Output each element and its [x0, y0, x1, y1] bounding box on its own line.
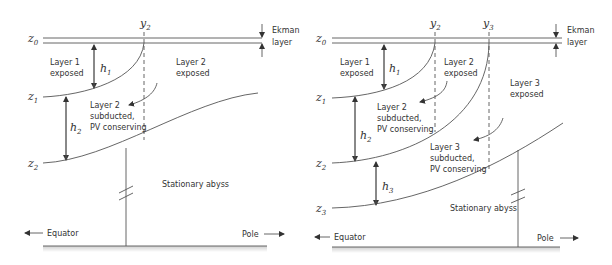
layer2-exposed-label-1: Layer 2	[444, 58, 474, 67]
layer3-subduction-arrow	[474, 118, 503, 140]
layer1-exposed-label-1: Layer 1	[340, 58, 370, 67]
z0-label: z0	[27, 32, 39, 47]
pole-label: Pole	[242, 230, 259, 239]
z3-label: z3	[315, 202, 327, 217]
h1-label: h1	[100, 62, 112, 77]
layer2-subduction-arrow	[420, 81, 447, 102]
panel-three-layer: z0 Ekman layer y2 y3 z1 z2 z3 h1 h2 h3	[315, 17, 594, 253]
ekman-label-1: Ekman	[567, 26, 594, 35]
layer2-subducted-label-1: Layer 2	[377, 103, 407, 112]
z1-label: z1	[27, 90, 38, 105]
layer2-subducted-label-3: PV conserving	[377, 125, 434, 134]
subduction-flow-arrow	[129, 83, 157, 105]
layer2-subducted-label-1: Layer 2	[90, 101, 120, 110]
abyss-label: Stationary abyss	[450, 204, 517, 213]
layer2-subducted-label-3: PV conserving	[90, 123, 147, 132]
equator-label: Equator	[47, 229, 79, 238]
layer3-exposed-label-2: exposed	[510, 90, 544, 99]
h1-label: h1	[389, 62, 401, 77]
layer3-subducted-label-3: PV conserving	[430, 165, 487, 174]
z2-label: z2	[27, 157, 39, 172]
z2-label: z2	[315, 157, 327, 172]
ekman-label-1: Ekman	[272, 26, 299, 35]
layer1-exposed-label-2: exposed	[50, 69, 84, 78]
equator-label: Equator	[334, 233, 366, 242]
abyss-label: Stationary abyss	[162, 180, 229, 189]
y3-label: y3	[482, 17, 494, 32]
pole-label: Pole	[537, 234, 554, 243]
h3-label: h3	[382, 180, 394, 195]
y2-label: y2	[429, 17, 441, 32]
ekman-label-2: layer	[272, 38, 293, 47]
h2-label: h2	[70, 121, 82, 136]
layer3-subducted-label-2: subducted,	[430, 154, 475, 163]
layer2-subducted-label-2: subducted,	[377, 114, 422, 123]
layer3-exposed-label-1: Layer 3	[510, 79, 540, 88]
sea-floor	[332, 247, 560, 253]
subduction-diagram: z0 Ekman layer y2 z1 z2 h1 h2 Layer 1 ex…	[0, 0, 612, 265]
layer2-subducted-label-2: subducted,	[90, 112, 135, 121]
h2-label: h2	[360, 129, 372, 144]
z0-label: z0	[315, 32, 327, 47]
layer1-exposed-label-1: Layer 1	[50, 58, 80, 67]
z1-label: z1	[315, 91, 326, 106]
layer1-exposed-label-2: exposed	[340, 69, 374, 78]
y2-label: y2	[139, 17, 151, 32]
sea-floor	[43, 246, 267, 252]
ekman-label-2: layer	[567, 38, 588, 47]
layer2-exposed-label-2: exposed	[176, 69, 210, 78]
layer2-exposed-label-1: Layer 2	[176, 58, 206, 67]
layer2-exposed-label-2: exposed	[444, 69, 478, 78]
layer3-subducted-label-1: Layer 3	[430, 143, 460, 152]
panel-two-layer: z0 Ekman layer y2 z1 z2 h1 h2 Layer 1 ex…	[25, 17, 299, 252]
